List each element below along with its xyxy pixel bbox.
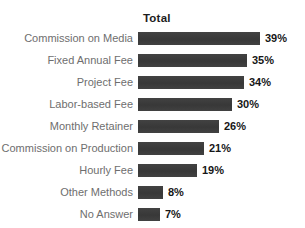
chart-row: Commission on Media 39% xyxy=(0,27,305,49)
chart-row: Hourly Fee 19% xyxy=(0,159,305,181)
category-label: Hourly Fee xyxy=(0,159,138,181)
bar xyxy=(138,98,232,111)
value-label: 34% xyxy=(249,76,271,88)
bar-chart: Total Commission on Media 39% Fixed Annu… xyxy=(0,0,305,228)
category-label: Commission on Production xyxy=(0,137,138,159)
category-label: Fixed Annual Fee xyxy=(0,49,138,71)
chart-row: Monthly Retainer 26% xyxy=(0,115,305,137)
chart-row: No Answer 7% xyxy=(0,203,305,225)
bar xyxy=(138,164,197,177)
chart-row: Fixed Annual Fee 35% xyxy=(0,49,305,71)
category-label: Monthly Retainer xyxy=(0,115,138,137)
chart-rows: Commission on Media 39% Fixed Annual Fee… xyxy=(0,27,305,225)
bar xyxy=(138,54,247,67)
chart-row: Commission on Production 21% xyxy=(0,137,305,159)
value-label: 30% xyxy=(237,98,259,110)
category-label: Project Fee xyxy=(0,71,138,93)
category-label: Other Methods xyxy=(0,181,138,203)
category-label: Labor-based Fee xyxy=(0,93,138,115)
value-label: 8% xyxy=(168,186,184,198)
value-label: 26% xyxy=(224,120,246,132)
bar xyxy=(138,208,160,221)
value-label: 35% xyxy=(252,54,274,66)
category-label: No Answer xyxy=(0,203,138,225)
bar xyxy=(138,76,244,89)
chart-row: Other Methods 8% xyxy=(0,181,305,203)
bar xyxy=(138,142,204,155)
value-label: 19% xyxy=(202,164,224,176)
bar xyxy=(138,32,260,45)
value-label: 21% xyxy=(209,142,231,154)
bar xyxy=(138,120,219,133)
chart-title: Total xyxy=(143,12,305,24)
category-label: Commission on Media xyxy=(0,27,138,49)
chart-row: Labor-based Fee 30% xyxy=(0,93,305,115)
bar xyxy=(138,186,163,199)
chart-row: Project Fee 34% xyxy=(0,71,305,93)
value-label: 7% xyxy=(165,208,181,220)
value-label: 39% xyxy=(265,32,287,44)
